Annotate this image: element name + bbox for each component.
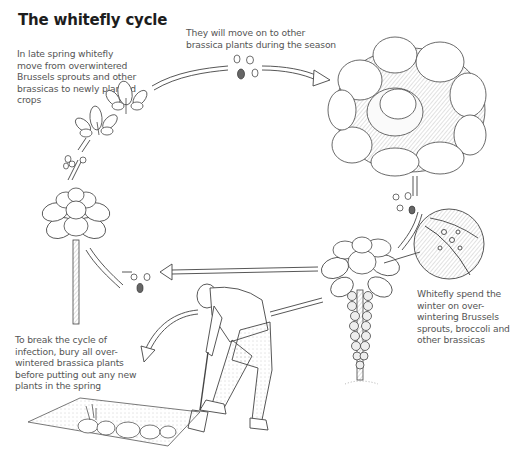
arrow-sprout-to-left: [160, 264, 318, 280]
young-brussels-plant: [40, 188, 112, 324]
cycle-illustration: [0, 0, 512, 458]
cabbage: [328, 37, 486, 176]
arrow-to-cabbage: [262, 66, 330, 86]
gardener-digging: [188, 284, 272, 432]
whitefly-cluster-top: [234, 55, 258, 79]
arrow-seedlings-to-move: [152, 66, 228, 90]
arrow-to-gardener: [270, 298, 323, 316]
arrow-gardener-to-trench: [141, 310, 198, 362]
arrow-cabbage-down: [413, 176, 417, 196]
trench: [28, 398, 200, 446]
arrow-young-plant-to-left: [86, 248, 123, 288]
whitefly-cluster-right: [393, 193, 415, 215]
seedling-right: [103, 80, 149, 114]
mature-brussels-plant: [318, 237, 402, 384]
arrow-seedling-link: [78, 138, 90, 152]
seedling-left: [73, 106, 120, 137]
whitefly-cluster-left-lower: [131, 274, 150, 293]
